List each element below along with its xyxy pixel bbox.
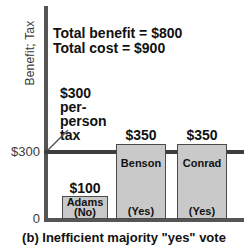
tax-annotation-leader-line	[47, 129, 69, 151]
y-tick-label-300: $300	[2, 144, 40, 159]
tax-annotation-line-2: per-	[60, 100, 107, 114]
y-axis-line	[44, 6, 48, 220]
figure-caption: (b) Inefficient majority "yes" vote	[0, 230, 248, 245]
bar-name-label-benson: Benson	[116, 157, 166, 169]
bar-value-label-adams: $100	[62, 180, 108, 196]
bar-vote-label-adams: (No)	[62, 206, 108, 218]
bar-value-label-benson: $350	[116, 127, 166, 143]
bar-vote-label-benson: (Yes)	[116, 205, 166, 217]
bar-value-label-conrad: $350	[177, 127, 227, 143]
y-tick-label-0: 0	[20, 211, 40, 226]
totals-annotation: Total benefit = $800 Total cost = $900	[53, 26, 182, 56]
tax-annotation-line-3: person	[60, 114, 107, 128]
total-cost-text: Total cost = $900	[53, 41, 182, 56]
bar-vote-label-conrad: (Yes)	[177, 205, 227, 217]
tax-annotation-line-1: $300	[60, 86, 107, 100]
bar-chart-figure: Benefit; Tax $300 0 Total benefit = $800…	[0, 0, 248, 250]
bar-name-label-conrad: Conrad	[177, 157, 227, 169]
y-axis-title: Benefit; Tax	[23, 3, 37, 103]
total-benefit-text: Total benefit = $800	[53, 26, 182, 41]
